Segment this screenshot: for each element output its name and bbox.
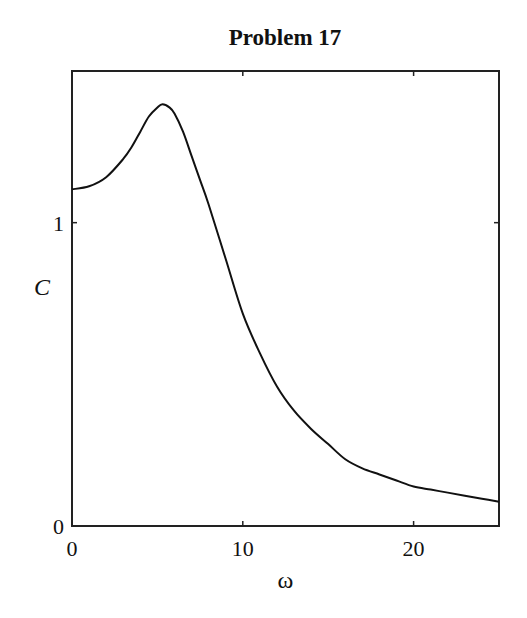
- y-tick-label: 1: [53, 211, 64, 236]
- x-tick-label: 10: [232, 536, 254, 561]
- axis-ticks: 0102001: [53, 71, 499, 561]
- y-axis-label: C: [34, 274, 51, 300]
- x-tick-label: 20: [403, 536, 425, 561]
- x-tick-label: 0: [67, 536, 78, 561]
- y-tick-label: 0: [53, 514, 64, 539]
- x-axis-label: ω: [278, 567, 294, 593]
- data-series-line: [72, 104, 499, 501]
- line-chart: 0102001 ω C: [0, 0, 527, 618]
